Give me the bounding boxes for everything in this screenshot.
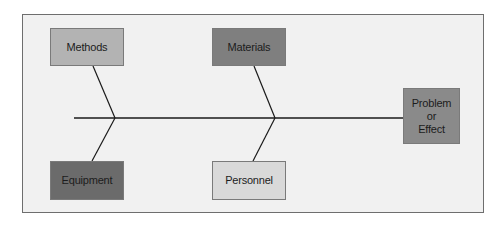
cause-label: Equipment <box>62 174 113 187</box>
effect-box: Problem or Effect <box>403 88 460 144</box>
effect-label-line-1: Problem <box>412 97 452 110</box>
bone-personnel <box>253 118 275 161</box>
cause-label: Methods <box>67 41 108 54</box>
bone-materials <box>254 66 275 118</box>
cause-box-personnel: Personnel <box>212 161 286 200</box>
bone-methods <box>93 66 115 118</box>
cause-box-equipment: Equipment <box>50 161 124 200</box>
cause-label: Materials <box>228 41 271 54</box>
cause-label: Personnel <box>225 174 273 187</box>
effect-label-line-3: Effect <box>418 123 445 136</box>
cause-box-methods: Methods <box>50 28 124 66</box>
bone-equipment <box>92 118 115 161</box>
cause-box-materials: Materials <box>212 28 286 66</box>
effect-label-line-2: or <box>427 110 436 123</box>
